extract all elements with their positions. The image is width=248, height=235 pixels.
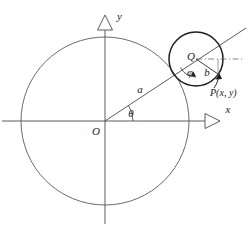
radius-a-label: a xyxy=(137,83,143,95)
origin-label: O xyxy=(92,125,100,137)
geometry-diagram: y x O θ a Q φ b P(x, y) xyxy=(0,0,248,235)
theta-label: θ xyxy=(128,107,134,119)
radius-b-label: b xyxy=(204,66,210,78)
point-p-label: P(x, y) xyxy=(209,87,237,99)
x-axis-arrow-icon xyxy=(205,114,220,129)
axes-group xyxy=(2,15,220,224)
figure-root: y x O θ a Q φ b P(x, y) xyxy=(0,0,248,235)
y-axis-arrow-icon xyxy=(98,15,113,30)
x-axis-label: x xyxy=(225,103,231,115)
phi-label: φ xyxy=(187,66,193,78)
point-q-label: Q xyxy=(187,50,195,62)
y-axis-label: y xyxy=(116,10,122,22)
